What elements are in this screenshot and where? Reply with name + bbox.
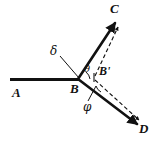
label-angle-delta: δ bbox=[50, 45, 57, 57]
label-point-b-prime: B' bbox=[99, 65, 110, 77]
figure-canvas bbox=[0, 0, 155, 142]
geometry-figure: A B B' C D θ φ δ bbox=[0, 0, 155, 142]
label-point-a: A bbox=[12, 86, 21, 99]
label-angle-phi: φ bbox=[83, 101, 91, 113]
label-point-d: D bbox=[139, 122, 148, 135]
label-point-b: B bbox=[70, 82, 79, 95]
leader-delta bbox=[60, 56, 79, 78]
arc-phi bbox=[96, 86, 101, 92]
label-point-c: C bbox=[110, 2, 119, 15]
segment-ray-bprime-d bbox=[95, 80, 139, 120]
label-angle-theta: θ bbox=[84, 64, 90, 74]
